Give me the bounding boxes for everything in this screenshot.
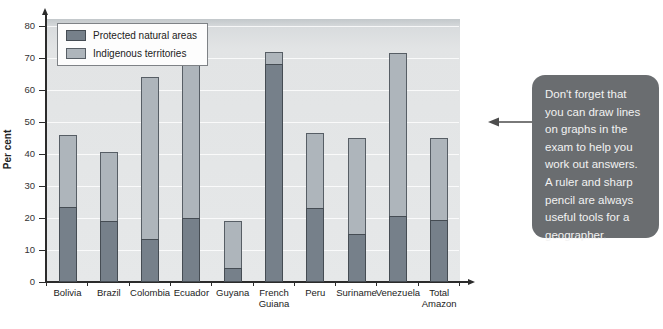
bar-segment [182,218,200,282]
x-axis-label: Total Amazon [406,287,472,309]
bar-total-amazon [430,138,448,282]
bar-segment [141,77,159,239]
bar-peru [306,133,324,282]
callout-arrow-icon [487,114,534,130]
y-tick-mark [39,58,45,59]
x-tick-mark [129,282,130,286]
bar-segment [224,268,242,282]
bar-segment [182,52,200,218]
bar-segment [389,216,407,282]
bar-segment [224,221,242,267]
x-tick-mark [459,282,460,286]
legend: Protected natural areasIndigenous territ… [57,23,208,66]
bar-segment [265,52,283,65]
bar-segment [265,64,283,282]
x-tick-mark [170,282,171,286]
y-tick-mark [39,154,45,155]
x-tick-mark [46,282,47,286]
legend-item: Protected natural areas [66,30,197,41]
y-tick-mark [39,26,45,27]
bar-segment [430,138,448,220]
x-tick-mark [253,282,254,286]
bar-ecuador [182,52,200,282]
bar-segment [59,135,77,207]
bar-segment [348,138,366,234]
bar-segment [141,239,159,282]
legend-swatch-icon [66,30,86,41]
y-tick-label: 80 [8,21,35,31]
bar-suriname [348,138,366,282]
bar-segment [389,53,407,216]
bar-bolivia [59,135,77,282]
bar-segment [348,234,366,282]
legend-swatch-icon [66,48,86,59]
y-tick-label: 60 [8,85,35,95]
bar-segment [430,220,448,282]
y-tick-label: 70 [8,53,35,63]
y-tick-label: 50 [8,117,35,127]
exam-tip-callout: Don't forget that you can draw lines on … [532,75,659,238]
bar-guyana [224,221,242,282]
y-tick-label: 30 [8,181,35,191]
bar-brazil [100,152,118,282]
legend-item: Indigenous territories [66,48,197,59]
bar-segment [100,221,118,282]
x-tick-mark [376,282,377,286]
y-tick-mark [39,282,45,283]
y-tick-mark [39,122,45,123]
y-tick-mark [39,186,45,187]
bar-segment [59,207,77,282]
x-tick-mark [211,282,212,286]
y-tick-label: 10 [8,245,35,255]
x-tick-mark [418,282,419,286]
y-tick-label: 0 [8,277,35,287]
y-tick-label: 40 [8,149,35,159]
y-axis-arrow-icon [42,8,48,15]
bar-colombia [141,77,159,282]
x-tick-mark [335,282,336,286]
y-tick-mark [39,90,45,91]
bar-segment [306,208,324,282]
y-tick-label: 20 [8,213,35,223]
x-axis-arrow-icon [468,279,475,285]
figure-protected-areas-chart: Per cent 01020304050607080 BoliviaBrazil… [0,0,663,329]
x-tick-mark [294,282,295,286]
y-tick-mark [39,218,45,219]
bar-french-guiana [265,52,283,282]
legend-label: Protected natural areas [93,30,197,41]
legend-label: Indigenous territories [93,48,186,59]
bar-segment [100,152,118,221]
bar-venezuela [389,53,407,282]
bar-segment [306,133,324,208]
y-tick-mark [39,250,45,251]
x-tick-mark [87,282,88,286]
